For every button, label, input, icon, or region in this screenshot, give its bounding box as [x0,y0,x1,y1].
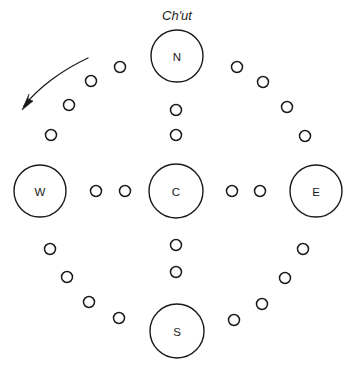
node-center: C [149,164,203,218]
bead-marker [298,244,309,255]
bead-marker [115,62,126,73]
bead-marker [45,244,56,255]
bead-marker [86,76,97,87]
node-label-center: C [172,186,180,198]
bead-marker [258,77,269,88]
bead-marker [232,62,243,73]
bead-marker [255,186,266,197]
flow-arrow-head-icon [22,94,33,110]
node-north: N [151,30,203,82]
bead-marker [229,315,240,326]
bead-marker [171,240,182,251]
node-group: NWCES [14,30,342,358]
flow-arrow-curve [24,58,88,106]
bead-marker [282,102,293,113]
bead-marker [300,131,311,142]
bead-marker [64,100,75,111]
bead-marker [84,297,95,308]
bead-marker [227,186,238,197]
bead-marker [171,130,182,141]
bead-marker [257,299,268,310]
bead-marker [280,273,291,284]
bead-marker [114,313,125,324]
bead-marker [120,186,131,197]
node-label-south: S [173,326,181,338]
bead-marker [62,272,73,283]
bead-marker [46,130,57,141]
bead-marker [171,267,182,278]
node-east: E [290,165,342,217]
bead-marker [91,186,102,197]
node-south: S [150,304,204,358]
bead-marker [171,105,182,116]
diagram-canvas: Ch'ut NWCES [0,0,351,366]
flow-arrow [22,58,88,110]
node-label-west: W [35,186,46,198]
node-label-north: N [173,51,181,63]
node-west: W [14,165,66,217]
diagram-title: Ch'ut [162,8,193,23]
diagram-svg: Ch'ut NWCES [0,0,351,366]
node-label-east: E [312,186,320,198]
